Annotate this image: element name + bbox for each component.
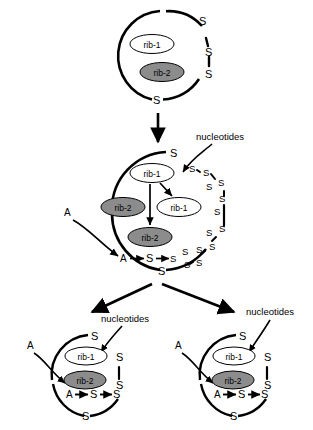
tail-s-9: S xyxy=(209,241,215,252)
diagram-svg: S S S S rib-1 rib-2 S S S S S S S S S S … xyxy=(0,0,313,430)
dl-reaction-s2: S xyxy=(113,388,120,400)
growing-sulfur-bottom: S xyxy=(158,265,165,277)
tail-s-6: S xyxy=(214,206,220,217)
growing-rib2-copy-label: rib-2 xyxy=(141,233,158,243)
substrate-arrow-right xyxy=(182,353,213,383)
growing-reaction-s1: S xyxy=(146,252,153,264)
dr-rib2-label: rib-2 xyxy=(224,376,241,386)
dl-sulfur-bottom: S xyxy=(82,410,89,422)
growing-sulfur-top: S xyxy=(170,147,177,159)
tail-s-4: S xyxy=(218,177,224,188)
parent-rib1-label: rib-1 xyxy=(143,40,160,50)
dr-rib1-label: rib-1 xyxy=(225,352,242,362)
dr-membrane-arc-bottomright xyxy=(238,399,266,416)
dl-sulfur-top: S xyxy=(91,330,98,342)
parent-membrane-seg-1 xyxy=(206,38,208,46)
nucleotides-arrow-left xyxy=(101,326,122,352)
growing-cell-group: S S S S S S S S S S S S S S S nucleotide… xyxy=(64,131,244,277)
tail-s-2: S xyxy=(203,167,209,178)
substrate-arrow-mid xyxy=(73,220,118,256)
daughter-cell-right-group: S S S S nucleotides A rib-1 rib-2 A S S xyxy=(175,306,294,422)
tail-s-13: S xyxy=(182,246,188,257)
tail-s-1: S xyxy=(189,163,195,174)
growing-reaction-s2: S xyxy=(170,253,176,264)
parent-cell-group: S S S S rib-1 rib-2 xyxy=(118,11,212,106)
tail-s-3: S xyxy=(206,181,212,192)
growing-reaction-a: A xyxy=(120,253,127,264)
parent-membrane-arc-left xyxy=(118,11,160,100)
parent-sulfur-2: S xyxy=(205,46,212,58)
nucleotides-label-mid: nucleotides xyxy=(196,131,244,142)
tail-link-5 xyxy=(212,237,216,241)
growing-rib1-parent-label: rib-1 xyxy=(143,169,160,179)
substrate-label-left: A xyxy=(27,340,34,351)
parent-sulfur-1: S xyxy=(199,15,206,27)
dl-membrane-arc-bottomright xyxy=(90,399,118,416)
figure-canvas: S S S S rib-1 rib-2 S S S S S S S S S S … xyxy=(0,0,313,430)
dr-sulfur-right-1: S xyxy=(264,351,271,363)
dl-reaction-a: A xyxy=(66,389,73,400)
tail-s-8: S xyxy=(206,227,212,238)
rib1-replication-arrow xyxy=(160,183,172,196)
dr-sulfur-top: S xyxy=(239,330,246,342)
parent-membrane-arc-bottom xyxy=(163,79,199,100)
parent-rib2-label: rib-2 xyxy=(153,68,170,78)
dl-rib2-label: rib-2 xyxy=(76,376,93,386)
growing-rib2-parent-label: rib-2 xyxy=(114,203,131,213)
tail-s-11: S xyxy=(196,257,202,268)
growing-rib1-copy-label: rib-1 xyxy=(170,203,187,213)
tail-link-2 xyxy=(211,174,215,179)
nucleotides-label-left: nucleotides xyxy=(101,313,149,324)
substrate-label-mid: A xyxy=(64,207,71,218)
daughter-cell-left-group: S S S S nucleotides A rib-1 rib-2 A S S xyxy=(27,313,149,422)
dr-sulfur-bottom: S xyxy=(230,410,237,422)
dr-reaction-s1: S xyxy=(238,388,245,400)
dl-sulfur-right-1: S xyxy=(116,351,123,363)
parent-sulfur-4: S xyxy=(153,94,160,106)
arrow-division-left xyxy=(92,284,152,312)
arrow-division-right xyxy=(162,284,234,312)
nucleotides-label-right: nucleotides xyxy=(246,306,294,317)
parent-membrane-arc-top xyxy=(166,11,202,26)
growing-sulfur-tail: S S S S S S S S S S S S S xyxy=(182,163,225,270)
substrate-arrow-left xyxy=(34,353,65,383)
nucleotides-arrow-right xyxy=(249,320,270,352)
dr-reaction-s2: S xyxy=(261,388,268,400)
tail-link-1 xyxy=(197,170,200,172)
dl-rib1-label: rib-1 xyxy=(77,352,94,362)
dl-reaction-s1: S xyxy=(90,388,97,400)
dr-reaction-a: A xyxy=(214,389,221,400)
parent-sulfur-3: S xyxy=(205,68,212,80)
substrate-label-right: A xyxy=(175,340,182,351)
